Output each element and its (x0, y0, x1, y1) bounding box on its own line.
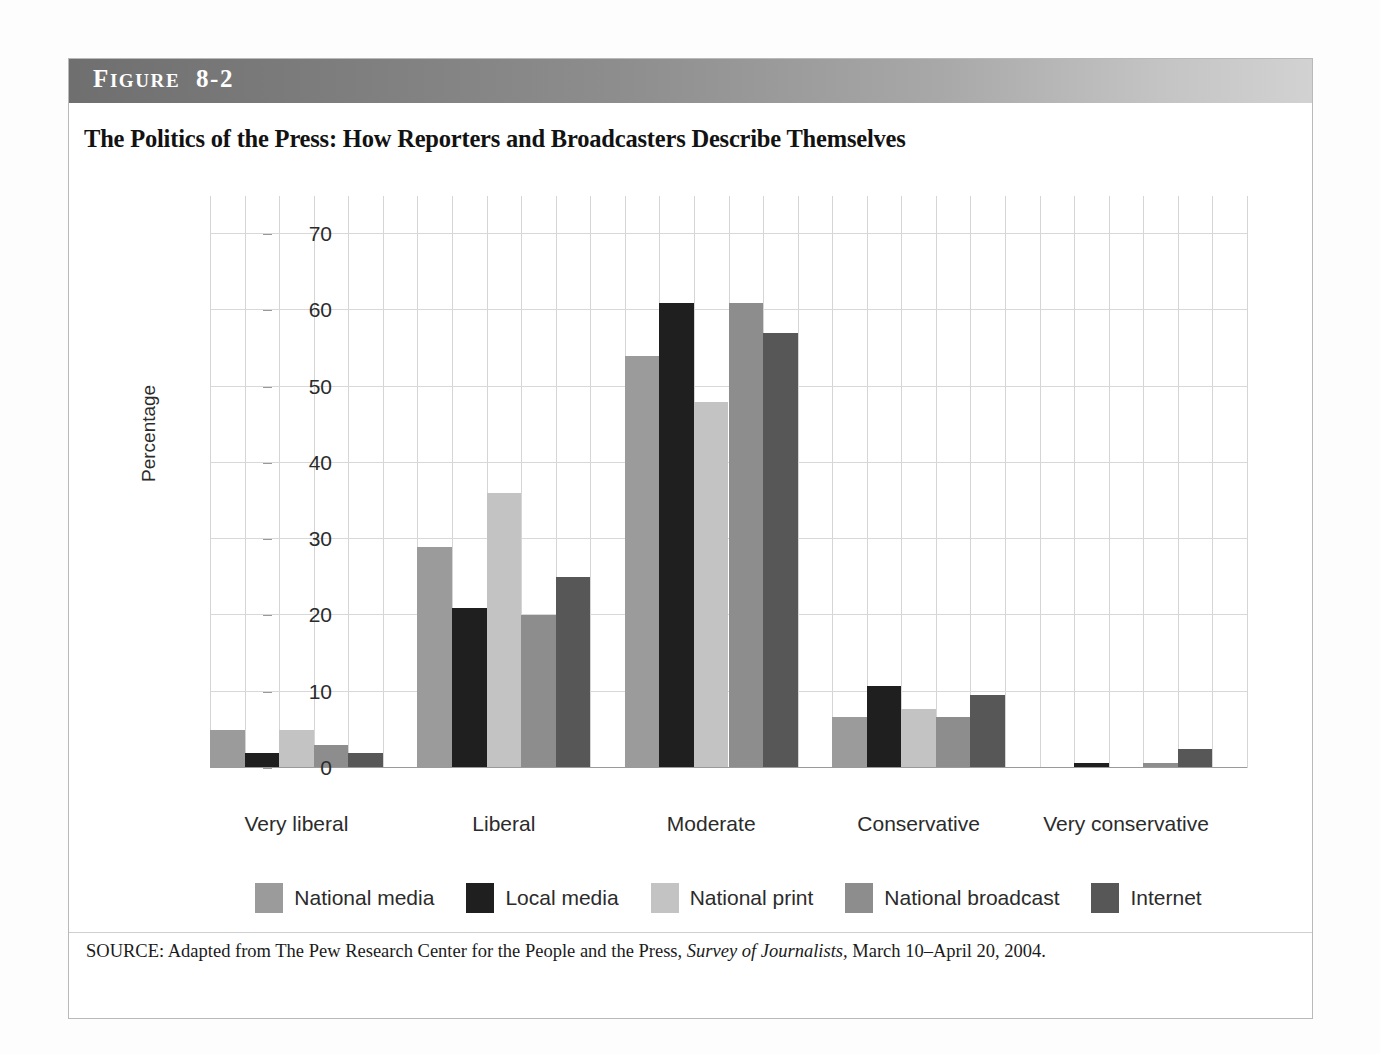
legend-item[interactable]: Internet (1091, 883, 1201, 913)
bar (625, 356, 660, 768)
bar (936, 717, 971, 768)
legend-swatch-icon (466, 883, 494, 913)
y-axis-tick-label: 50 (272, 375, 332, 399)
y-axis-tick-label: 10 (272, 680, 332, 704)
bar (763, 333, 798, 768)
source-suffix: March 10–April 20, 2004. (852, 941, 1046, 961)
y-axis-tick-mark (263, 768, 272, 769)
bar (832, 717, 867, 768)
y-axis-tick-label: 20 (272, 603, 332, 627)
legend-item[interactable]: National broadcast (845, 883, 1059, 913)
bar (867, 686, 902, 768)
legend-item[interactable]: Local media (466, 883, 618, 913)
figure-page: FIGURE 8-2 The Politics of the Press: Ho… (0, 0, 1380, 1054)
bar (417, 547, 452, 768)
y-axis-tick-mark (263, 387, 272, 388)
chart-legend: National mediaLocal mediaNational printN… (210, 878, 1247, 918)
legend-item[interactable]: National print (651, 883, 814, 913)
y-axis-tick-mark (263, 615, 272, 616)
y-axis-tick-mark (263, 463, 272, 464)
y-axis-tick-mark (263, 310, 272, 311)
bar (659, 303, 694, 768)
x-axis-category-label: Very conservative (1043, 812, 1209, 836)
bar (487, 493, 522, 768)
y-axis-tick-mark (263, 234, 272, 235)
y-axis-tick-label: 60 (272, 298, 332, 322)
y-axis-tick-label: 30 (272, 527, 332, 551)
bar (1178, 749, 1213, 768)
bar (556, 577, 591, 768)
bar (348, 753, 383, 768)
legend-label: National broadcast (884, 886, 1059, 910)
x-axis-category-label: Liberal (472, 812, 535, 836)
x-axis-category-label: Moderate (667, 812, 756, 836)
x-axis-line (210, 767, 1247, 768)
legend-label: National print (690, 886, 814, 910)
source-divider (69, 932, 1312, 933)
bar (694, 402, 729, 768)
bar-series-group (210, 196, 1247, 768)
y-axis-title: Percentage (138, 385, 160, 482)
y-axis-tick-mark (263, 692, 272, 693)
bar (452, 608, 487, 768)
legend-label: Internet (1130, 886, 1201, 910)
source-note: SOURCE: Adapted from The Pew Research Ce… (86, 941, 1046, 962)
bar (970, 695, 1005, 768)
bar (729, 303, 764, 768)
legend-swatch-icon (1091, 883, 1119, 913)
bar (901, 709, 936, 768)
y-axis-tick-label: 40 (272, 451, 332, 475)
bar (210, 730, 245, 768)
gridline-vertical (1247, 196, 1248, 768)
legend-item[interactable]: National media (255, 883, 434, 913)
source-prefix: SOURCE: Adapted from The Pew Research Ce… (86, 941, 682, 961)
x-axis-category-label: Conservative (857, 812, 980, 836)
y-axis-tick-label: 0 (272, 756, 332, 780)
legend-swatch-icon (255, 883, 283, 913)
legend-label: Local media (505, 886, 618, 910)
y-axis-tick-label: 70 (272, 222, 332, 246)
y-axis-tick-mark (263, 539, 272, 540)
legend-swatch-icon (651, 883, 679, 913)
x-axis-category-label: Very liberal (244, 812, 348, 836)
legend-label: National media (294, 886, 434, 910)
bar (521, 615, 556, 768)
source-italic-title: Survey of Journalists, (687, 941, 848, 961)
legend-swatch-icon (845, 883, 873, 913)
plot-area (210, 196, 1247, 768)
